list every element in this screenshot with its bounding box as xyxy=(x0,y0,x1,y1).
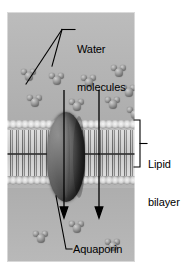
label-lipid-bilayer-line1: Lipid xyxy=(148,158,180,171)
lipid-bilayer-bracket xyxy=(134,120,140,167)
label-aquaporin: Aquaporin xyxy=(73,243,122,256)
water-label-leader-b xyxy=(52,30,62,67)
label-lipid-bilayer: Lipid bilayer xyxy=(148,133,180,233)
label-lipid-bilayer-line2: bilayer xyxy=(148,196,180,209)
label-water-molecules: Water molecules xyxy=(77,18,126,118)
label-water-molecules-line2: molecules xyxy=(77,81,126,94)
aquaporin-figure: Water molecules Lipid bilayer Aquaporin xyxy=(0,0,190,279)
aquaporin-leader xyxy=(56,196,72,249)
water-label-leader-a xyxy=(26,30,62,85)
label-water-molecules-line1: Water xyxy=(77,43,126,56)
